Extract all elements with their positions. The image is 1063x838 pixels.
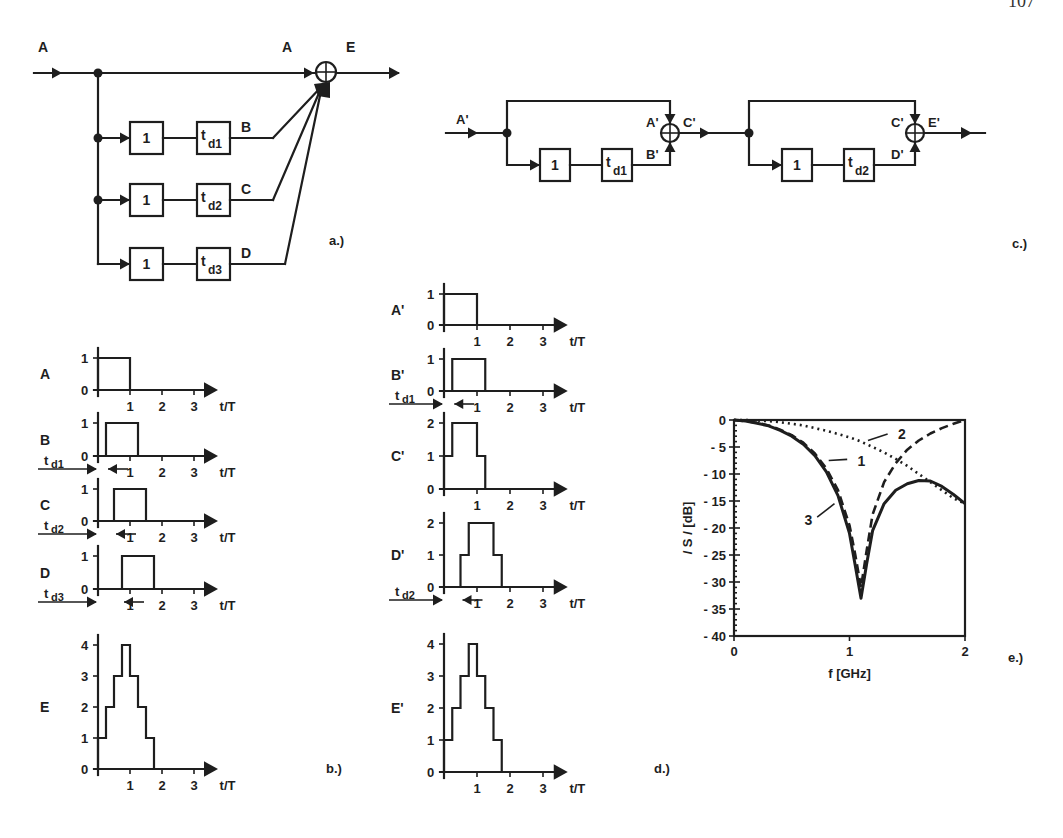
block-label: t xyxy=(848,154,853,170)
x-tick-label: 2 xyxy=(158,778,165,793)
arrow-head-icon xyxy=(554,579,568,594)
x-tick-label: 2 xyxy=(961,644,968,659)
x-tick-label: 2 xyxy=(158,598,165,613)
input-label-A: A xyxy=(38,39,48,55)
y-tick-label: - 40 xyxy=(704,629,726,644)
y-tick-label: 2 xyxy=(81,700,88,715)
gain-block: 1 xyxy=(130,184,163,216)
delay-block-d1: td1 xyxy=(197,122,230,154)
x-tick-label: 1 xyxy=(473,400,480,415)
y-tick-label: 4 xyxy=(427,637,435,652)
summing-junction-icon xyxy=(661,124,679,142)
panel-c-caption: c.) xyxy=(1012,236,1027,251)
block-label: t xyxy=(201,127,206,143)
arrow-head-icon xyxy=(454,399,463,409)
x-tick-label: 1 xyxy=(126,399,133,414)
x-tick-label: 3 xyxy=(539,781,546,796)
x-tick-label: 3 xyxy=(190,598,197,613)
x-tick-label: 3 xyxy=(539,596,546,611)
signal-name: E xyxy=(40,699,49,715)
y-tick-label: 1 xyxy=(81,351,88,366)
sum-bottom-label: D' xyxy=(891,147,903,162)
y-tick-label: 1 xyxy=(427,352,434,367)
panel-e-caption: e.) xyxy=(1008,650,1023,665)
arrow-head-icon xyxy=(304,68,314,79)
arrow-head-icon xyxy=(700,128,710,139)
gain-block: 1 xyxy=(782,149,812,181)
input-label-A-prime: A' xyxy=(456,112,468,127)
y-tick-label: 1 xyxy=(427,449,434,464)
x-tick-label: 1 xyxy=(473,334,480,349)
arrow-head-icon xyxy=(433,595,443,606)
delay-block-d2: td2 xyxy=(197,184,230,216)
sum-output-label: E' xyxy=(928,115,940,130)
y-tick-label: 0 xyxy=(81,762,88,777)
timing-plot-e-prime: 01234123t/TE' xyxy=(391,634,585,796)
y-tick-label: 1 xyxy=(427,733,434,748)
block-subscript: d2 xyxy=(208,199,222,213)
arrow-head-icon xyxy=(530,160,540,171)
arrow-head-icon xyxy=(665,142,676,152)
merged-arrow-heads-icon xyxy=(314,82,330,98)
timing-plot-a: 01123t/TA xyxy=(40,348,236,414)
block-label: 1 xyxy=(143,130,151,146)
arrow-head-icon xyxy=(772,160,782,171)
x-axis-label: f [GHz] xyxy=(828,666,871,681)
waveform xyxy=(452,359,485,391)
y-tick-label: 1 xyxy=(427,548,434,563)
y-axis-label: / S / [dB] xyxy=(680,502,695,555)
y-tick-label: 0 xyxy=(719,413,726,428)
x-tick-label: 1 xyxy=(846,644,853,659)
x-tick-label: 2 xyxy=(506,400,513,415)
wire xyxy=(273,86,322,138)
signal-name: A xyxy=(40,366,50,382)
series-1-dashed-line xyxy=(734,420,965,587)
callout-leader-2 xyxy=(868,434,888,440)
arrow-head-icon xyxy=(910,142,921,152)
wire xyxy=(273,86,322,200)
series-callout-label: 1 xyxy=(858,453,866,469)
x-tick-label: 3 xyxy=(190,530,197,545)
x-tick-label: 0 xyxy=(730,644,737,659)
stage-2: 1td2C'D'E' xyxy=(745,101,940,181)
timing-plot-c-prime: 012123t/TC' xyxy=(391,413,585,513)
block-label: t xyxy=(201,189,206,205)
arrow-head-icon xyxy=(463,595,472,605)
arrow-head-icon xyxy=(554,764,568,779)
panel-b-timing-plots: 01123t/TA01123t/TBtd101123t/TCtd201123t/… xyxy=(38,348,236,793)
arrow-head-icon xyxy=(116,529,125,539)
y-tick-label: 0 xyxy=(81,383,88,398)
signal-name: D xyxy=(40,565,50,581)
y-tick-label: - 20 xyxy=(704,521,726,536)
block-subscript: d1 xyxy=(613,164,627,178)
timing-plot-b-prime: 01123t/TB'td1 xyxy=(389,349,585,415)
panel-d-caption: d.) xyxy=(654,761,670,776)
arrow-head-icon xyxy=(204,513,218,528)
delay-label-t: t xyxy=(395,388,400,403)
branch-output-label: C xyxy=(241,181,251,197)
timing-plot-a-prime: 01123t/TA' xyxy=(391,284,585,349)
delay-label-subscript: d3 xyxy=(51,591,64,603)
x-tick-label: 1 xyxy=(473,596,480,611)
y-tick-label: 1 xyxy=(81,549,88,564)
signal-name: C' xyxy=(391,448,404,464)
x-axis-label: t/T xyxy=(569,334,585,349)
y-tick-label: 0 xyxy=(81,514,88,529)
arrow-head-icon xyxy=(120,195,130,206)
x-tick-label: 3 xyxy=(190,399,197,414)
branch-b: 1td1B xyxy=(94,86,323,154)
y-tick-label: 4 xyxy=(81,638,89,653)
arrow-head-icon xyxy=(554,383,568,398)
arrow-head-icon xyxy=(87,597,97,608)
timing-plot-e: 01234123t/TE xyxy=(40,635,236,793)
y-tick-label: 2 xyxy=(427,701,434,716)
panel-c-block-diagram: A'1td1A'B'C'1td2C'D'E'c.) xyxy=(446,101,1027,251)
block-subscript: d2 xyxy=(855,164,869,178)
x-tick-label: 1 xyxy=(473,498,480,513)
arrow-head-icon xyxy=(87,464,97,475)
x-tick-label: 1 xyxy=(126,530,133,545)
waveform xyxy=(114,489,146,521)
y-tick-label: 3 xyxy=(81,669,88,684)
x-tick-label: 1 xyxy=(473,781,480,796)
y-tick-label: 2 xyxy=(427,516,434,531)
